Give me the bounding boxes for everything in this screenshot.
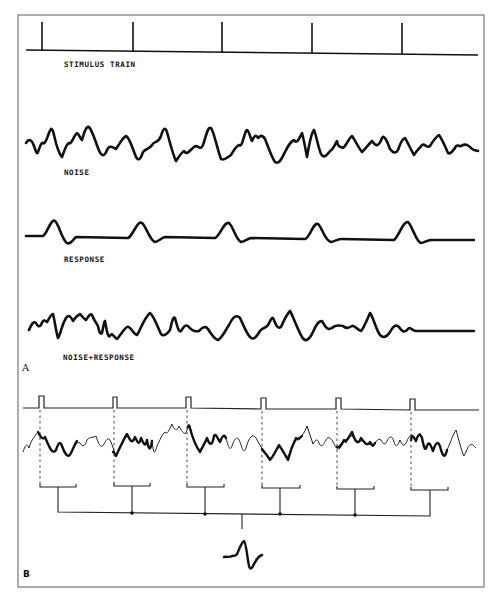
summation-bus xyxy=(58,486,430,529)
noise-plus-response-trace xyxy=(29,311,474,340)
noisy-recording-trace xyxy=(23,424,476,458)
stimulus-pulse-train xyxy=(23,396,479,410)
noise-plus-response-label: NOISE+RESPONSE xyxy=(63,353,135,362)
panel-a-label: A xyxy=(22,362,29,373)
stimulus-train-trace xyxy=(26,22,478,55)
noise-trace xyxy=(26,127,478,163)
epoch-brackets xyxy=(40,483,448,490)
figure-frame xyxy=(18,15,484,587)
response-trace xyxy=(26,221,474,244)
stimulus-train-label: STIMULUS TRAIN xyxy=(64,60,136,69)
stimulus-drop-lines xyxy=(40,410,411,489)
panel-b-label: B xyxy=(23,569,30,579)
noise-label: NOISE xyxy=(64,168,90,177)
averaged-response-waveform xyxy=(224,541,262,568)
response-label: RESPONSE xyxy=(64,255,105,264)
signal-averaging-diagram xyxy=(0,0,499,605)
